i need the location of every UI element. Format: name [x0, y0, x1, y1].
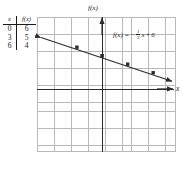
column-header-fx: f(x) — [17, 16, 37, 24]
data-point-marker — [75, 46, 78, 49]
plot-vector-overlay — [37, 17, 176, 152]
value-table-head: x f(x) — [3, 16, 36, 24]
column-header-x: x — [3, 16, 17, 24]
cell-fx: 4 — [17, 42, 37, 51]
y-axis-label: f(x) — [88, 4, 98, 12]
data-point-marker — [100, 54, 104, 58]
value-table-body: 0 6 3 5 6 4 — [3, 24, 36, 50]
cell-x: 6 — [3, 42, 17, 51]
table-row: 0 6 — [3, 24, 36, 33]
value-table-grid: x f(x) 0 6 3 5 6 4 — [3, 16, 36, 50]
data-point-marker — [126, 63, 129, 66]
cell-fx: 6 — [17, 24, 37, 33]
x-axis-label: x — [176, 84, 179, 93]
figure-linear-function-graph: x f(x) 0 6 3 5 6 4 — [0, 0, 183, 170]
cell-x: 0 — [3, 24, 17, 33]
coordinate-plane: f(x) x f(x) = − 1 3 x + 6 — [37, 17, 176, 152]
data-point-marker — [152, 71, 155, 74]
value-table-header-row: x f(x) — [3, 16, 36, 24]
table-row: 6 4 — [3, 42, 36, 51]
value-table: x f(x) 0 6 3 5 6 4 — [3, 16, 36, 50]
function-line — [41, 38, 172, 82]
